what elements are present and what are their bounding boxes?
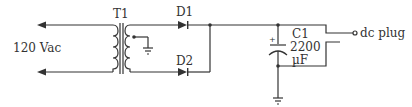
transformer-secondary-coil — [125, 25, 130, 72]
label-capacitor-polarity: + — [269, 35, 276, 44]
circuit-diagram: 120 Vac T1 D1 D2 C1 2200 µF + dc plug — [0, 0, 412, 107]
label-input: 120 Vac — [13, 41, 61, 55]
label-d2: D2 — [176, 54, 193, 68]
diode-d2-icon — [178, 68, 188, 76]
arrow-icon-input-bottom — [37, 69, 46, 76]
arrow-icon-input-top — [37, 22, 46, 29]
wire-output-positive — [278, 25, 353, 33]
label-capacitor: C1 — [292, 27, 309, 41]
label-d1: D1 — [176, 5, 193, 19]
label-capacitor-value: 2200 — [290, 40, 321, 54]
dc-plug-terminal-icon — [353, 31, 357, 35]
junction-dot-cap-bottom — [276, 64, 280, 68]
label-output: dc plug — [360, 26, 405, 40]
junction-dot-diodes — [208, 23, 212, 27]
ground-icon-capacitor — [273, 98, 283, 104]
ground-icon-transformer — [143, 48, 153, 54]
transformer-primary-coil — [113, 25, 118, 72]
diode-d1-icon — [178, 21, 188, 29]
label-capacitor-unit: µF — [292, 53, 308, 67]
junction-dot-cap-top — [276, 23, 280, 27]
label-transformer: T1 — [113, 7, 129, 21]
junction-dot-center-tap — [132, 35, 136, 39]
